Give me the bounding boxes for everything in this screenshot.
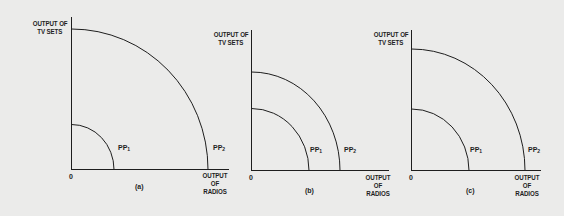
y-label-line1: OUTPUT OF [214,31,249,39]
x-label-line1: OUTPUT [363,174,393,182]
panel-c-pp2-label: PP2 [528,146,540,154]
x-label-line3: RADIOS [512,190,542,198]
x-label-line3: RADIOS [363,190,393,198]
panel-c-caption: (c) [466,187,475,194]
panel-c-x-axis-label: OUTPUT OF RADIOS [512,174,542,198]
panel-c-origin: 0 [409,174,413,181]
y-label-line2: TV SETS [214,39,249,47]
panel-a-y-axis-label: OUTPUT OF TV SETS [33,20,68,36]
panel-b-pp2-label: PP2 [344,146,356,154]
panel-b-origin: 0 [249,174,253,181]
curve-name: PP [213,144,222,151]
panel-b-x-axis-label: OUTPUT OF RADIOS [363,174,393,198]
panel-a-origin: 0 [69,173,73,180]
panel-a-pp2-curve [72,29,209,170]
production-possibility-figure: OUTPUT OF TV SETS 0 PP1 PP2 OUTPUT OF RA… [0,0,564,216]
curve-name: PP [470,146,479,153]
y-label-line1: OUTPUT OF [33,20,68,28]
figure-drawing [0,0,564,216]
panel-a-pp2-label: PP2 [213,144,225,152]
panel-b-pp1-label: PP1 [310,146,322,154]
curve-sub: 1 [319,148,322,154]
panel-a-caption: (a) [135,183,144,190]
panel-b-y-axis-label: OUTPUT OF TV SETS [214,31,249,47]
x-label-line2: OF [363,182,393,190]
curve-sub: 2 [537,148,540,154]
panel-a-axes [71,17,229,170]
panel-b-caption: (b) [305,187,314,194]
x-label-line1: OUTPUT [200,172,230,180]
y-label-line2: TV SETS [374,39,409,47]
x-label-line1: OUTPUT [512,174,542,182]
x-label-line2: OF [512,182,542,190]
panel-c-pp1-curve [412,109,470,171]
panel-b-pp2-curve [252,72,341,171]
curve-sub: 2 [222,146,225,152]
curve-name: PP [310,146,319,153]
x-label-line2: OF [200,180,230,188]
panel-c-pp2-curve [412,49,526,171]
curve-sub: 2 [353,148,356,154]
panel-c-y-axis-label: OUTPUT OF TV SETS [374,31,409,47]
curve-name: PP [344,146,353,153]
y-label-line1: OUTPUT OF [374,31,409,39]
panel-a-pp1-curve [72,125,115,170]
y-label-line2: TV SETS [33,28,68,36]
curve-name: PP [118,144,127,151]
curve-sub: 1 [479,148,482,154]
panel-b-pp1-curve [252,109,310,171]
curve-sub: 1 [127,146,130,152]
panel-a-pp1-label: PP1 [118,144,130,152]
panel-a-x-axis-label: OUTPUT OF RADIOS [200,172,230,196]
x-label-line3: RADIOS [200,188,230,196]
curve-name: PP [528,146,537,153]
panel-c-pp1-label: PP1 [470,146,482,154]
